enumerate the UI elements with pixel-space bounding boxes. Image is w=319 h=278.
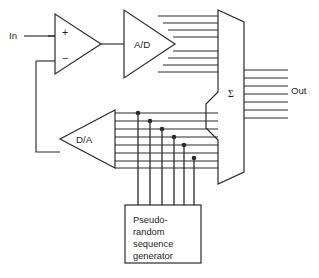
block-diagram-canvas: In Out + − A/D D/A Σ Pseudo- random sequ… — [0, 0, 319, 278]
plus-sign-label: + — [62, 26, 68, 38]
prs-line-4: generator — [133, 251, 173, 261]
figure-root: In Out + − A/D D/A Σ Pseudo- random sequ… — [0, 0, 319, 278]
summer-label: Σ — [228, 88, 234, 99]
tap-dot — [148, 119, 153, 124]
dac-label: D/A — [76, 134, 93, 145]
input-label: In — [9, 30, 17, 41]
tap-dot — [136, 111, 141, 116]
tap-dot — [172, 135, 177, 140]
tap-dot — [182, 143, 187, 148]
prs-line-3: sequence — [133, 239, 173, 249]
tap-dot — [192, 156, 197, 161]
prs-line-2: random — [133, 227, 165, 237]
adc-label: A/D — [134, 39, 150, 50]
tap-dot — [160, 127, 165, 132]
minus-sign-label: − — [62, 52, 68, 64]
output-label: Out — [291, 85, 307, 96]
prs-line-1: Pseudo- — [133, 215, 168, 225]
